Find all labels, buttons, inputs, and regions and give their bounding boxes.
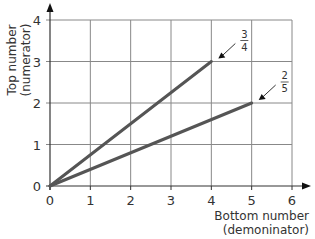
x-tick-label: 1	[86, 193, 94, 208]
x-axis-arrow-icon	[302, 183, 311, 190]
axes	[46, 3, 311, 190]
y-axis-label: Top number (numerator)	[5, 24, 33, 97]
x-tick-label: 5	[248, 193, 256, 208]
y-axis-label-line2: (numerator)	[19, 24, 33, 97]
y-tick-label: 1	[33, 138, 41, 153]
x-tick-label: 6	[288, 193, 296, 208]
fraction-label: 25	[259, 70, 289, 100]
y-tick-label: 0	[33, 179, 41, 194]
y-tick-label: 2	[33, 96, 41, 111]
fraction-label: 34	[218, 29, 248, 59]
x-tick-label: 2	[127, 193, 135, 208]
x-axis-label: Bottom number (demoninator)	[214, 209, 309, 237]
x-tick-label: 0	[46, 193, 54, 208]
fraction-denominator: 5	[281, 83, 287, 94]
fraction-line-chart: 012345601234 3425 Top number (numerator)…	[0, 0, 315, 239]
fraction-annotations: 3425	[218, 29, 288, 101]
y-axis-arrow-icon	[47, 3, 54, 12]
y-axis-label-line1: Top number	[5, 24, 19, 96]
fraction-numerator: 3	[241, 29, 247, 40]
pointer-line	[262, 85, 276, 98]
x-axis-label-line1: Bottom number	[214, 209, 309, 223]
x-axis-label-line2: (demoninator)	[223, 223, 309, 237]
data-series	[50, 62, 252, 187]
x-tick-label: 4	[207, 193, 215, 208]
fraction-denominator: 4	[241, 42, 247, 53]
y-tick-label: 3	[33, 55, 41, 70]
tick-labels: 012345601234	[33, 13, 296, 208]
fraction-numerator: 2	[281, 70, 287, 81]
x-tick-label: 3	[167, 193, 175, 208]
pointer-line	[221, 44, 235, 57]
y-tick-label: 4	[33, 13, 41, 28]
